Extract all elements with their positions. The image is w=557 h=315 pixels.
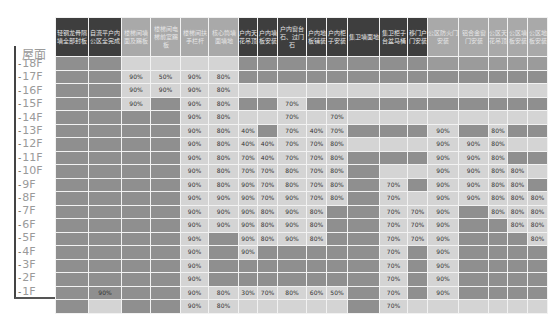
progress-cell — [122, 57, 151, 71]
progress-cell: 80% — [489, 138, 508, 152]
floor-label: 17F — [14, 70, 50, 83]
progress-cell — [151, 259, 181, 273]
progress-cell — [327, 97, 348, 111]
progress-cell: 90% — [181, 192, 209, 206]
progress-cell — [489, 259, 508, 273]
progress-cell — [239, 97, 258, 111]
progress-cell — [181, 57, 209, 71]
progress-cell — [348, 57, 380, 71]
progress-cell: 90% — [89, 286, 122, 300]
progress-cell: 60% — [307, 286, 327, 300]
progress-cell — [239, 273, 258, 287]
progress-cell — [151, 246, 181, 260]
table-row: 90%90%80%30%70%80%60%50%70%90% — [56, 286, 548, 300]
table-row: 90%70%90% — [56, 259, 548, 273]
progress-cell: 90% — [181, 246, 209, 260]
progress-cell — [408, 138, 428, 152]
progress-cell: 80% — [508, 219, 528, 233]
progress-cell — [459, 246, 489, 260]
progress-cell: 90% — [122, 84, 151, 98]
progress-cell: 80% — [528, 219, 548, 233]
progress-cell: 80% — [489, 165, 508, 179]
progress-cell — [459, 219, 489, 233]
progress-cell — [327, 246, 348, 260]
progress-cell: 90% — [181, 178, 209, 192]
progress-cell: 90% — [459, 138, 489, 152]
column-header: 楼梯间电梯前室踢板 — [151, 18, 181, 57]
column-header: 楼梯间墙面及踢板 — [122, 18, 151, 57]
progress-cell — [122, 259, 151, 273]
floor-label: 13F — [14, 124, 50, 137]
progress-cell — [408, 178, 428, 192]
progress-cell: 90% — [239, 178, 258, 192]
progress-cell — [508, 57, 528, 71]
progress-cell: 70% — [278, 97, 307, 111]
progress-cell — [307, 84, 327, 98]
progress-cell — [89, 178, 122, 192]
progress-cell — [56, 151, 89, 165]
floor-label: 16F — [14, 84, 50, 97]
progress-cell — [151, 97, 181, 111]
progress-cell — [258, 84, 278, 98]
progress-cell: 80% — [307, 219, 327, 233]
progress-cell: 90% — [428, 246, 459, 260]
progress-cell: 70% — [258, 192, 278, 206]
progress-cell — [348, 246, 380, 260]
progress-cell — [348, 219, 380, 233]
progress-cell: 80% — [489, 192, 508, 206]
progress-cell — [258, 273, 278, 287]
progress-cell — [258, 70, 278, 84]
column-header: 集卫墙面地 — [348, 18, 380, 57]
progress-cell — [348, 273, 380, 287]
progress-cell: 80% — [327, 178, 348, 192]
column-header: 户内窗台石、过门石 — [278, 18, 307, 57]
table-row: 90%70%90% — [56, 273, 548, 287]
table-row: 90%90%70%90% — [56, 246, 548, 260]
floor-label: 9F — [14, 178, 50, 191]
progress-cell — [122, 273, 151, 287]
progress-cell — [489, 97, 508, 111]
progress-cell — [380, 111, 408, 125]
progress-cell: 90% — [181, 97, 209, 111]
progress-cell: 70% — [380, 205, 408, 219]
progress-cell: 80% — [278, 178, 307, 192]
progress-cell — [56, 57, 89, 71]
progress-cell: 70% — [307, 151, 327, 165]
progress-cell — [258, 111, 278, 125]
progress-cell — [508, 273, 528, 287]
progress-cell — [459, 205, 489, 219]
progress-cell: 90% — [428, 286, 459, 300]
progress-cell — [151, 205, 181, 219]
progress-cell: 70% — [380, 286, 408, 300]
progress-cell: 80% — [528, 192, 548, 206]
progress-cell — [508, 84, 528, 98]
progress-cell — [122, 124, 151, 138]
progress-table: 轻钢龙骨隔墙全部封板自流平户内公区全完成楼梯间墙面及踢板楼梯间电梯前室踢板楼梯间… — [55, 17, 548, 314]
progress-cell — [380, 70, 408, 84]
progress-cell — [508, 138, 528, 152]
progress-cell — [89, 111, 122, 125]
progress-cell — [348, 178, 380, 192]
progress-cell — [408, 273, 428, 287]
floor-label: 2F — [14, 271, 50, 284]
table-row — [56, 57, 548, 71]
progress-cell: 90% — [428, 219, 459, 233]
progress-cell — [327, 232, 348, 246]
floor-label: 5F — [14, 231, 50, 244]
progress-cell: 90% — [459, 165, 489, 179]
progress-cell — [122, 151, 151, 165]
progress-cell — [89, 84, 122, 98]
progress-cell — [408, 165, 428, 179]
progress-cell — [56, 300, 89, 314]
progress-cell — [528, 165, 548, 179]
progress-cell — [122, 138, 151, 152]
progress-cell — [380, 165, 408, 179]
progress-cell — [489, 286, 508, 300]
progress-cell — [89, 232, 122, 246]
progress-cell — [56, 232, 89, 246]
progress-cell — [489, 300, 508, 314]
progress-cell: 70% — [239, 165, 258, 179]
progress-cell — [408, 84, 428, 98]
floor-label: 7F — [14, 204, 50, 217]
progress-cell: 70% — [380, 300, 408, 314]
